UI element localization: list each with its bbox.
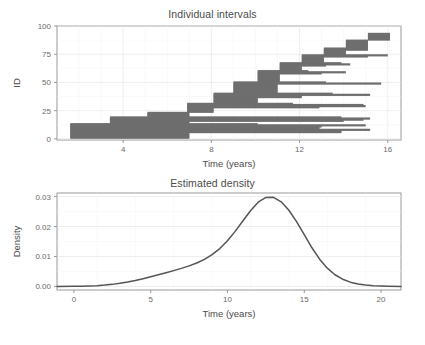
- panel-individual-intervals: Individual intervals 4812160255075100Tim…: [0, 0, 425, 172]
- x-tick-label: 8: [209, 145, 214, 154]
- x-tick-label: 16: [383, 145, 392, 154]
- y-tick-label: 50: [42, 78, 51, 87]
- x-axis-title: Time (years): [203, 308, 256, 319]
- interval-bar: [233, 81, 326, 83]
- x-tick-label: 4: [121, 145, 126, 154]
- interval-bar: [368, 33, 390, 35]
- y-tick-label: 0.02: [35, 223, 51, 232]
- interval-bar: [346, 40, 368, 42]
- y-tick-label: 0.03: [35, 193, 51, 202]
- y-tick-label: 25: [42, 107, 51, 116]
- x-tick-label: 5: [148, 295, 153, 304]
- estimated-density-plot: 051015200.000.010.020.03Time (years)Dens…: [0, 172, 425, 344]
- x-tick-label: 20: [377, 295, 386, 304]
- y-tick-label: 0.00: [35, 282, 51, 291]
- interval-bar: [147, 112, 189, 114]
- y-tick-label: 75: [42, 50, 51, 59]
- y-axis-title: Density: [11, 225, 22, 257]
- y-axis-title: ID: [11, 78, 22, 88]
- panel-estimated-density: Estimated density 051015200.000.010.020.…: [0, 172, 425, 344]
- x-tick-label: 0: [72, 295, 77, 304]
- x-tick-label: 10: [223, 295, 232, 304]
- x-tick-label: 12: [295, 145, 304, 154]
- individual-intervals-plot: 4812160255075100Time (years)ID: [0, 0, 425, 172]
- y-tick-label: 0.01: [35, 252, 51, 261]
- figure-canvas: Individual intervals 4812160255075100Tim…: [0, 0, 425, 345]
- y-tick-label: 100: [38, 22, 52, 31]
- interval-bar: [110, 116, 342, 118]
- x-tick-label: 15: [300, 295, 309, 304]
- y-tick-label: 0: [47, 135, 52, 144]
- x-axis-title: Time (years): [203, 158, 256, 169]
